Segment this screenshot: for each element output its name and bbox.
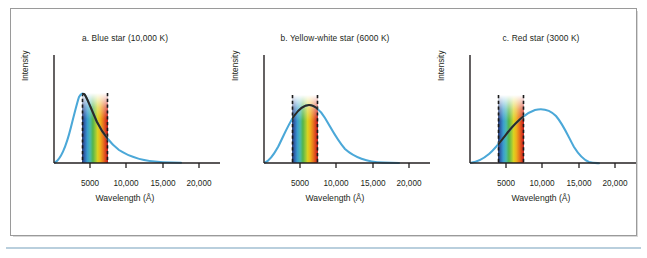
panel-b-chart — [263, 55, 431, 177]
bottom-divider — [6, 247, 641, 249]
x-ticks-a — [90, 163, 199, 168]
xtick-5000: 5000 — [81, 179, 99, 188]
xtick-10000: 10,000 — [113, 179, 138, 188]
panel-blue-star: a. Blue star (10,000 K) Intensity — [23, 25, 227, 225]
panel-a-xlabel: Wavelength (Å) — [23, 193, 227, 203]
figure-frame: a. Blue star (10,000 K) Intensity — [10, 8, 637, 236]
panel-b-ylabel: Intensity — [231, 51, 240, 82]
panel-b-title: b. Yellow-white star (6000 K) — [233, 33, 437, 43]
panel-c-ylabel: Intensity — [437, 51, 446, 82]
panel-b-xticks: 5000 10,000 15,000 20,000 — [263, 179, 435, 193]
panel-c-xlabel: Wavelength (Å) — [439, 193, 643, 203]
panel-c-chart — [469, 55, 637, 177]
panel-b-xlabel: Wavelength (Å) — [233, 193, 437, 203]
xtick-10000: 10,000 — [529, 179, 554, 188]
panel-b-plot — [263, 55, 431, 177]
blackbody-curve-c — [471, 109, 599, 163]
blackbody-curve-a — [55, 94, 181, 163]
panel-red-star: c. Red star (3000 K) Intensity — [439, 25, 643, 225]
panel-c-plot — [469, 55, 637, 177]
xtick-15000: 15,000 — [150, 179, 175, 188]
xtick-15000: 15,000 — [360, 179, 385, 188]
panel-c-xticks: 5000 10,000 15,000 20,000 — [469, 179, 641, 193]
xtick-5000: 5000 — [497, 179, 515, 188]
xtick-5000: 5000 — [291, 179, 309, 188]
panel-a-title: a. Blue star (10,000 K) — [23, 33, 227, 43]
xtick-15000: 15,000 — [566, 179, 591, 188]
panel-c-title: c. Red star (3000 K) — [439, 33, 643, 43]
panel-a-xticks: 5000 10,000 15,000 20,000 — [53, 179, 225, 193]
panel-a-ylabel: Intensity — [21, 51, 30, 82]
blackbody-curve-b — [265, 105, 399, 163]
xtick-20000: 20,000 — [396, 179, 421, 188]
panel-a-chart — [53, 55, 221, 177]
panel-yellow-white-star: b. Yellow-white star (6000 K) Intensity — [233, 25, 437, 225]
visible-spectrum-band-a — [82, 93, 108, 163]
xtick-20000: 20,000 — [186, 179, 211, 188]
xtick-10000: 10,000 — [323, 179, 348, 188]
panel-a-plot — [53, 55, 221, 177]
xtick-20000: 20,000 — [602, 179, 627, 188]
blackbody-curve-a-in-band — [55, 94, 181, 163]
